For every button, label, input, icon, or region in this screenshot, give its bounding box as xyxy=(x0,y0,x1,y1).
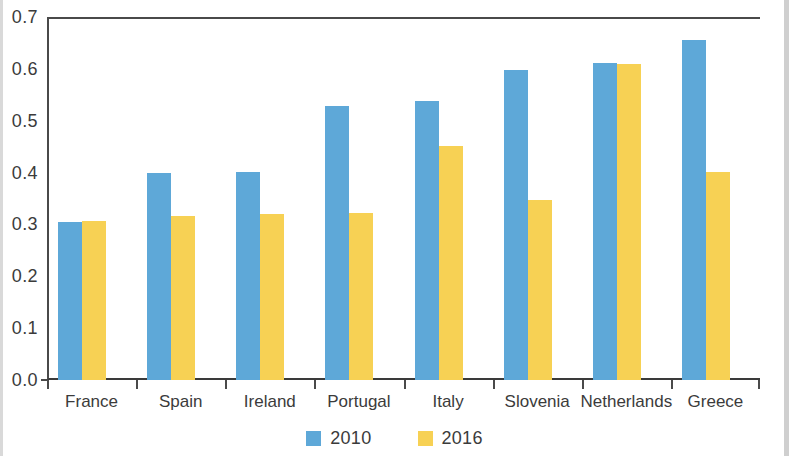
bar-chart-figure: 0.70.60.50.40.30.20.10.0 FranceSpainIrel… xyxy=(0,0,789,456)
x-tick-mark xyxy=(225,380,227,389)
x-axis-tick-marks xyxy=(47,380,760,389)
x-tick-mark xyxy=(314,380,316,389)
y-axis: 0.70.60.50.40.30.20.10.0 xyxy=(0,0,47,397)
x-tick-mark xyxy=(493,380,495,389)
bar-portugal-2016 xyxy=(349,213,373,380)
x-label-italy: Italy xyxy=(432,392,463,412)
legend-label: 2010 xyxy=(330,428,371,449)
y-tick-label: 0.3 xyxy=(12,214,38,235)
bar-italy-2010 xyxy=(415,101,439,380)
y-tick-label: 0.4 xyxy=(12,162,38,183)
bar-netherlands-2016 xyxy=(617,64,641,380)
bar-group xyxy=(582,17,671,380)
bar-spain-2016 xyxy=(171,216,195,380)
x-label-france: France xyxy=(65,392,118,412)
bar-greece-2016 xyxy=(706,172,730,380)
x-axis-labels: FranceSpainIrelandPortugalItalySloveniaN… xyxy=(47,392,760,420)
legend-swatch-icon xyxy=(306,431,321,446)
bars-layer xyxy=(47,17,760,380)
bar-ireland-2010 xyxy=(236,172,260,380)
page-edge-right xyxy=(784,0,789,456)
x-tick-mark xyxy=(136,380,138,389)
x-tick-mark xyxy=(582,380,584,389)
x-tick-mark xyxy=(404,380,406,389)
y-tick-label: 0.7 xyxy=(12,7,38,28)
y-tick-label: 0.0 xyxy=(12,370,38,391)
chart-legend: 20102016 xyxy=(0,428,789,449)
x-tick-mark xyxy=(47,380,49,389)
y-tick-label: 0.2 xyxy=(12,266,38,287)
x-tick-mark xyxy=(758,380,760,389)
legend-swatch-icon xyxy=(418,431,433,446)
bar-group xyxy=(225,17,314,380)
y-tick-label: 0.1 xyxy=(12,318,38,339)
x-label-ireland: Ireland xyxy=(244,392,296,412)
bar-greece-2010 xyxy=(682,40,706,380)
bar-portugal-2010 xyxy=(325,106,349,380)
legend-item-2016[interactable]: 2016 xyxy=(418,428,483,449)
x-label-portugal: Portugal xyxy=(327,392,390,412)
bar-italy-2016 xyxy=(439,146,463,380)
bar-slovenia-2010 xyxy=(504,70,528,380)
legend-item-2010[interactable]: 2010 xyxy=(306,428,371,449)
bar-group xyxy=(671,17,760,380)
x-label-slovenia: Slovenia xyxy=(505,392,570,412)
y-tick-label: 0.5 xyxy=(12,110,38,131)
y-tick-label: 0.6 xyxy=(12,58,38,79)
x-label-greece: Greece xyxy=(688,392,744,412)
bar-group xyxy=(47,17,136,380)
bar-group xyxy=(136,17,225,380)
bar-group xyxy=(493,17,582,380)
x-tick-mark xyxy=(671,380,673,389)
bar-spain-2010 xyxy=(147,173,171,380)
bar-slovenia-2016 xyxy=(528,200,552,380)
bar-group xyxy=(404,17,493,380)
bar-netherlands-2010 xyxy=(593,63,617,380)
bar-france-2010 xyxy=(58,222,82,380)
bar-group xyxy=(314,17,403,380)
x-label-netherlands: Netherlands xyxy=(580,392,672,412)
bar-france-2016 xyxy=(82,221,106,380)
x-label-spain: Spain xyxy=(159,392,202,412)
legend-label: 2016 xyxy=(442,428,483,449)
bar-ireland-2016 xyxy=(260,214,284,380)
